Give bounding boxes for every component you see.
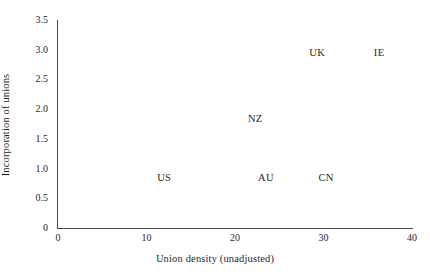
y-tick-label: 3.0: [20, 45, 48, 55]
x-axis-line: [57, 228, 413, 229]
data-point-ie: IE: [374, 47, 385, 58]
data-point-nz: NZ: [248, 112, 263, 123]
x-tick-label: 10: [142, 233, 152, 243]
x-tick-label: 40: [407, 233, 417, 243]
y-axis-title: Incorporation of unions: [0, 50, 11, 200]
data-point-cn: CN: [319, 172, 334, 183]
x-axis-title: Union density (unadjusted): [0, 253, 430, 264]
y-axis-line: [57, 20, 58, 229]
data-point-au: AU: [258, 172, 274, 183]
x-tick-label: 30: [319, 233, 329, 243]
data-point-uk: UK: [309, 47, 325, 58]
data-point-us: US: [157, 172, 171, 183]
x-tick-label: 20: [230, 233, 240, 243]
scatter-chart: 3.5 3.0 2.5 2.0 1.5 1.0 0.5 0 0 10 20 30…: [0, 0, 430, 278]
y-tick-label: 2.0: [20, 104, 48, 114]
y-tick-label: 0: [20, 223, 48, 233]
y-tick-label: 2.5: [20, 74, 48, 84]
y-tick-label: 0.5: [20, 193, 48, 203]
x-tick-label: 0: [56, 233, 61, 243]
y-tick-label: 3.5: [20, 15, 48, 25]
y-tick-label: 1.5: [20, 134, 48, 144]
y-tick-label: 1.0: [20, 164, 48, 174]
